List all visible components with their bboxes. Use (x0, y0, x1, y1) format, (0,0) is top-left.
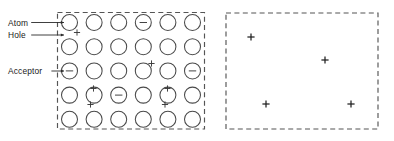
free-hole-3 (262, 100, 269, 107)
atom-circle-r1c6 (185, 15, 201, 31)
atom-circle-r5c2 (86, 111, 102, 127)
label-hole: Hole (8, 30, 26, 40)
diagram-canvas: AtomHoleAcceptor (0, 0, 394, 141)
semiconductor-doping-diagram: AtomHoleAcceptor (0, 0, 394, 141)
atom-circle-r3c3 (111, 63, 127, 79)
free-hole-2 (321, 56, 328, 63)
atom-circle-r1c2 (86, 15, 102, 31)
free-holes-panel (226, 13, 378, 129)
free-holes-panel-boundary (226, 13, 378, 129)
semiconductor-lattice-panel: AtomHoleAcceptor (8, 13, 205, 130)
atom-circle-r5c4 (135, 111, 151, 127)
atom-circle-r3c2 (86, 63, 102, 79)
atom-circle-r4c2 (86, 87, 102, 103)
hole-plus-r2c1 (74, 29, 80, 35)
hole-plus-r4c2 (90, 85, 96, 91)
atom-circle-r5c6 (185, 111, 201, 127)
hole-plus-r4c5 (164, 85, 170, 91)
atom-circle-r3c4 (135, 63, 151, 79)
atom-circle-r2c1 (62, 39, 78, 55)
atom-circle-r5c5 (160, 111, 176, 127)
label-atom: Atom (8, 18, 28, 28)
atom-circle-r1c5 (160, 15, 176, 31)
leader-arrowhead-hole (61, 33, 64, 36)
hole-plus-r5c2 (87, 101, 93, 107)
atom-circle-r4c4 (135, 87, 151, 103)
atom-circle-r4c1 (62, 87, 78, 103)
hole-plus-r5c5 (162, 101, 168, 107)
free-hole-4 (347, 100, 354, 107)
label-acceptor: Acceptor (8, 66, 42, 76)
atom-circle-r2c3 (111, 39, 127, 55)
leader-arrowhead-atom (61, 21, 64, 24)
atom-circle-r2c5 (160, 39, 176, 55)
atom-circle-r4c6 (185, 87, 201, 103)
free-hole-1 (247, 33, 254, 40)
atom-circle-r3c5 (160, 63, 176, 79)
atom-circle-r2c2 (86, 39, 102, 55)
atom-circle-r1c3 (111, 15, 127, 31)
atom-circle-r5c3 (111, 111, 127, 127)
atom-circle-r5c1 (62, 111, 78, 127)
atom-circle-r2c6 (185, 39, 201, 55)
leader-arrowhead-acceptor (61, 69, 64, 72)
semiconductor-lattice-panel-boundary (58, 13, 205, 130)
atom-circle-r2c4 (135, 39, 151, 55)
